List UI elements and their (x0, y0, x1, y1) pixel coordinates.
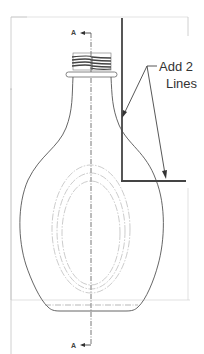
section-label-bottom: A (71, 342, 76, 349)
section-arrow-top-icon (80, 31, 85, 35)
callout-leaders (122, 66, 167, 179)
callout-line-1: Add 2 (159, 59, 193, 74)
section-line (80, 31, 91, 347)
section-arrow-bottom-icon (80, 343, 85, 347)
leader-arrowhead-icon (162, 170, 167, 179)
bottle-finish (66, 53, 117, 77)
bottle-outline (20, 77, 164, 311)
callout-line-2: Lines (166, 76, 198, 91)
section-label-top: A (71, 29, 76, 36)
drawing-canvas: A A (0, 0, 204, 354)
